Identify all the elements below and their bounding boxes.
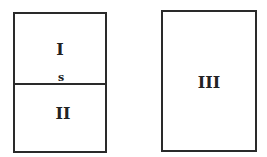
region-label-iii: III — [198, 73, 220, 92]
boundary-label-s: s — [58, 71, 64, 84]
region-label-ii: II — [56, 104, 71, 123]
region-label-i: I — [56, 40, 63, 59]
